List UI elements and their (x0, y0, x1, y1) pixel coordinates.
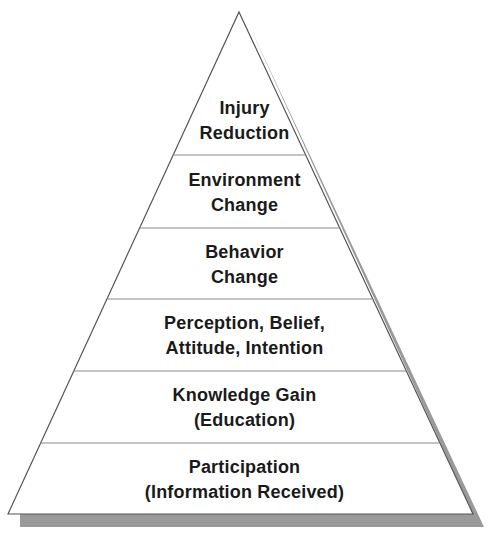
layer-knowledge-gain: Knowledge Gain (Education) (0, 383, 489, 433)
layer-label-line2: Attitude, Intention (0, 336, 489, 361)
layer-injury-reduction: Injury Reduction (0, 96, 489, 146)
layer-label-line2: Reduction (0, 121, 489, 146)
layer-environment-change: Environment Change (0, 168, 489, 218)
layer-label-line1: Behavior (0, 240, 489, 265)
layer-label-line2: (Education) (0, 408, 489, 433)
layer-label-line1: Participation (0, 455, 489, 480)
layer-behavior-change: Behavior Change (0, 240, 489, 290)
layer-label-line2: Change (0, 265, 489, 290)
layer-label-line1: Perception, Belief, (0, 311, 489, 336)
layer-label-line2: (Information Received) (0, 480, 489, 505)
layer-label-line1: Injury (0, 96, 489, 121)
layer-label-line2: Change (0, 193, 489, 218)
layer-participation: Participation (Information Received) (0, 455, 489, 505)
layer-label-line1: Knowledge Gain (0, 383, 489, 408)
layer-perception-belief: Perception, Belief, Attitude, Intention (0, 311, 489, 361)
layer-label-line1: Environment (0, 168, 489, 193)
